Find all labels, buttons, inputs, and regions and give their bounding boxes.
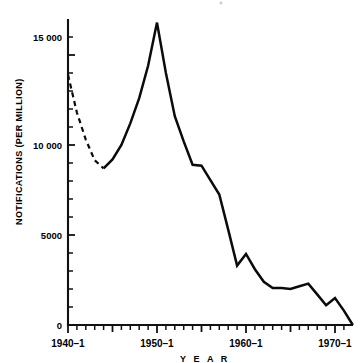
y-tick-label-5000: 5000 xyxy=(41,230,62,241)
x-tick-label-1940: 1940–1 xyxy=(51,338,85,349)
line-chart-figure: 15 000 10 000 5000 0 1940–1 1950–1 1960–… xyxy=(0,0,362,363)
y-tick-label-0: 0 xyxy=(57,320,62,331)
x-tick-label-1950: 1950–1 xyxy=(140,338,174,349)
x-axis-title: Y E A R xyxy=(180,354,230,363)
x-axis-ticks xyxy=(68,325,344,333)
scan-artifact-speck xyxy=(219,1,222,4)
x-tick-label-1960: 1960–1 xyxy=(229,338,263,349)
x-tick-label-1970: 1970–1 xyxy=(318,338,352,349)
data-line-estimated xyxy=(68,75,104,169)
data-line-recorded xyxy=(104,23,353,325)
y-tick-label-15000: 15 000 xyxy=(33,32,62,43)
y-tick-label-10000: 10 000 xyxy=(33,140,62,151)
chart-container: 15 000 10 000 5000 0 1940–1 1950–1 1960–… xyxy=(0,0,362,363)
y-axis-title: NOTIFICATIONS (PER MILLION) xyxy=(14,78,24,225)
